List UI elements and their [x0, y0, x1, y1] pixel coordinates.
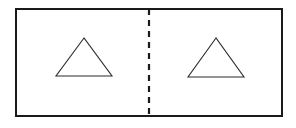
right-triangle-icon — [188, 38, 244, 77]
diagram-svg — [0, 0, 296, 128]
left-triangle-icon — [56, 38, 112, 76]
diagram-canvas — [0, 0, 296, 128]
